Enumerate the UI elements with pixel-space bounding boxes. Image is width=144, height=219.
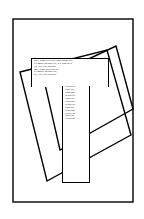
wide-paragraph: amet, consectetur sadLorem ipsum doli ut… — [32, 59, 108, 77]
text-line: a kasdlubi — [65, 118, 87, 121]
narrow-text-column: ur sadLort idunt dltr, a kasdlubi ut sad… — [62, 86, 90, 183]
slide-canvas: amet, consectetur sadLorem ipsum doli ut… — [0, 0, 144, 219]
narrow-paragraph: ur sadLort idunt dltr, a kasdlubi ut sad… — [63, 86, 89, 121]
wide-text-panel: amet, consectetur sadLorem ipsum doli ut… — [31, 58, 109, 87]
text-line: ctat. Sict clita kasdlubi — [34, 74, 107, 77]
